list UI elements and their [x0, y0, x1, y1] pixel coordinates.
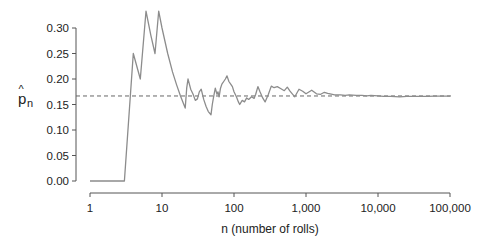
y-tick-label: 0.00 [47, 175, 69, 187]
y-tick-label: 0.30 [47, 22, 69, 34]
x-tick-label: 1,000 [292, 202, 321, 214]
y-tick-label: 0.20 [47, 73, 69, 85]
y-tick-label: 0.10 [47, 124, 69, 136]
line-chart: 0.000.050.100.150.200.250.30 1101001,000… [0, 0, 490, 246]
x-axis-title: n (number of rolls) [221, 222, 318, 236]
y-tick-label: 0.25 [47, 48, 69, 60]
y-axis-title-sub: n [27, 97, 33, 109]
x-tick-label: 100,000 [429, 202, 471, 214]
x-tick-label: 1 [87, 202, 93, 214]
x-axis: 1101001,00010,000100,000 [87, 193, 471, 214]
x-tick-label: 10 [156, 202, 169, 214]
y-tick-label: 0.15 [47, 99, 69, 111]
running-proportion-line [90, 11, 450, 181]
y-axis: 0.000.050.100.150.200.250.30 [47, 22, 76, 187]
x-tick-label: 10,000 [360, 202, 395, 214]
y-axis-title-hat: ^ [19, 83, 25, 95]
x-tick-label: 100 [224, 202, 243, 214]
y-tick-label: 0.05 [47, 150, 69, 162]
y-axis-title: p ^ n [18, 83, 33, 109]
